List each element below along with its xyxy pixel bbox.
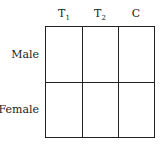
contingency-grid xyxy=(45,26,155,138)
column-label: C xyxy=(132,7,140,20)
column-subscript: 1 xyxy=(65,14,69,22)
column-header-c: C xyxy=(118,7,154,20)
column-header-t1: T1 xyxy=(46,7,82,22)
row-divider xyxy=(46,82,154,83)
row-header-female: Female xyxy=(0,103,39,116)
column-header-t2: T2 xyxy=(82,7,118,22)
row-header-male: Male xyxy=(11,48,39,61)
column-subscript: 2 xyxy=(101,14,105,22)
